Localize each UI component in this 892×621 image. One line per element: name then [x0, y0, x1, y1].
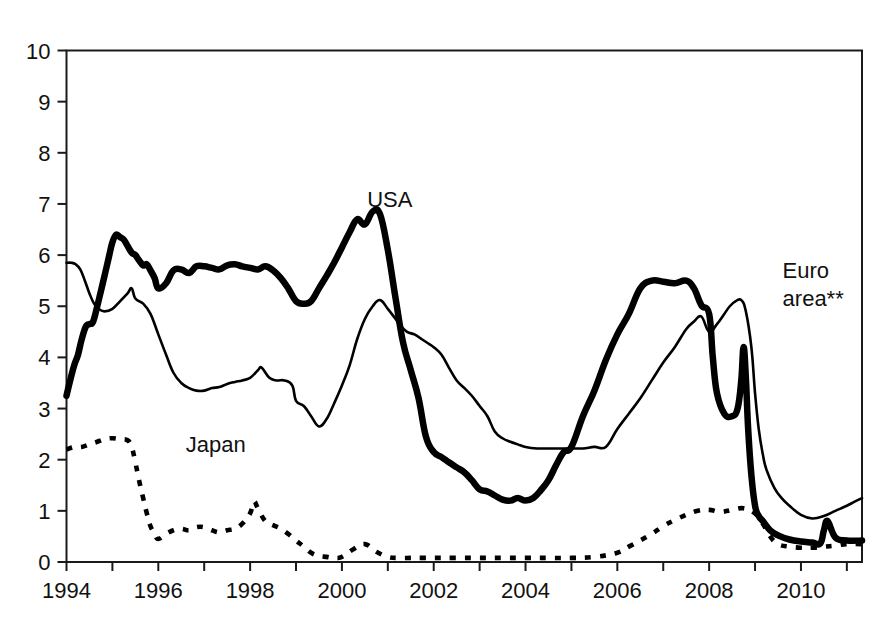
interest-rate-line-chart: 012345678910 199419961998200020022004200…	[0, 0, 892, 621]
x-axis-tick-label: 2004	[501, 578, 550, 603]
euro-area-series-label-line2: area**	[783, 286, 845, 311]
x-axis-tick-label: 1994	[42, 578, 91, 603]
y-axis-tick-label: 0	[38, 550, 50, 575]
x-axis-tick-label: 2000	[317, 578, 366, 603]
y-axis-tick-label: 10	[26, 39, 50, 64]
chart-container: 012345678910 199419961998200020022004200…	[0, 0, 892, 621]
y-axis-tick-label: 6	[38, 243, 50, 268]
x-axis-tick-label: 2002	[409, 578, 458, 603]
usa-series-label: USA	[367, 187, 413, 212]
x-axis-tick-label: 1996	[134, 578, 183, 603]
y-axis-tick-label: 8	[38, 141, 50, 166]
x-axis-tick-label: 2008	[685, 578, 734, 603]
chart-background	[0, 0, 892, 621]
y-axis-tick-label: 2	[38, 448, 50, 473]
y-axis-tick-label: 9	[38, 90, 50, 115]
y-axis-tick-label: 7	[38, 192, 50, 217]
euro-area-series-label-line1: Euro	[783, 258, 829, 283]
y-axis-tick-label: 1	[38, 499, 50, 524]
x-axis-tick-label: 2010	[776, 578, 825, 603]
y-axis-tick-label: 3	[38, 397, 50, 422]
japan-series-label: Japan	[186, 432, 246, 457]
x-axis-tick-label: 1998	[226, 578, 275, 603]
x-axis-tick-label: 2006	[593, 578, 642, 603]
y-axis-tick-label: 4	[38, 345, 50, 370]
y-axis-tick-label: 5	[38, 294, 50, 319]
